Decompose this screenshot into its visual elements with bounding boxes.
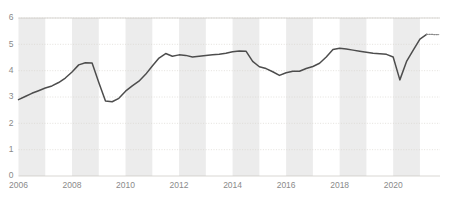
line-chart: 0123456 20062008201020122014201620182020 [0,0,455,204]
x-tick-label: 2010 [116,180,135,190]
y-tick-label: 6 [9,12,14,22]
chart-canvas: 0123456 20062008201020122014201620182020 [0,0,455,204]
x-tick-label: 2016 [277,180,296,190]
y-tick-label-group: 0123456 [9,12,14,180]
y-tick-label: 5 [9,39,14,49]
x-tick-label: 2018 [330,180,349,190]
y-tick-label: 3 [9,91,14,101]
x-tick-label: 2020 [384,180,403,190]
y-tick-label: 4 [9,65,14,75]
x-tick-label-group: 20062008201020122014201620182020 [9,180,403,190]
y-tick-label: 2 [9,118,14,128]
x-tick-label: 2008 [63,180,82,190]
x-tick-label: 2014 [223,180,242,190]
x-tick-label: 2012 [170,180,189,190]
x-tick-label: 2006 [9,180,28,190]
y-tick-label: 1 [9,144,14,154]
y-tick-label: 0 [9,170,14,180]
